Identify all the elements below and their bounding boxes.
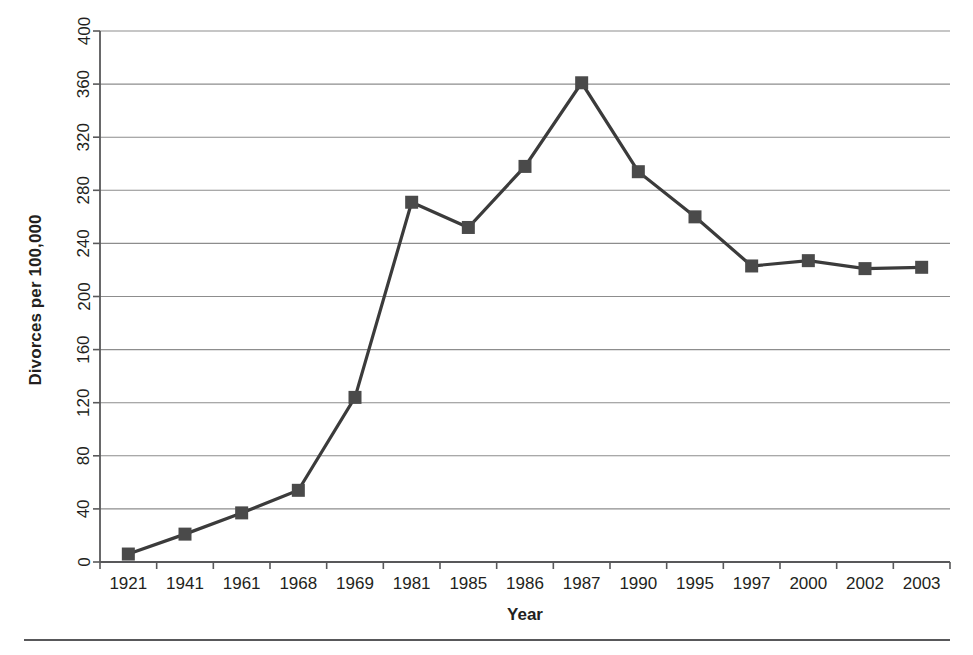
data-point-marker <box>802 254 815 267</box>
x-axis-tick-label: 1981 <box>393 574 431 593</box>
data-point-marker <box>859 262 872 275</box>
y-axis-tick-label: 0 <box>75 557 94 566</box>
y-axis-tick-label: 40 <box>75 499 94 518</box>
data-point-marker <box>575 76 588 89</box>
data-point-marker <box>915 261 928 274</box>
y-axis-tick-labels-group: 04080120160200240280320360400 <box>75 17 94 567</box>
data-point-marker <box>292 484 305 497</box>
x-axis-tick-label: 1990 <box>619 574 657 593</box>
gridlines-group <box>100 31 950 509</box>
data-point-marker <box>349 391 362 404</box>
y-axis-tick-label: 280 <box>75 176 94 204</box>
data-point-marker <box>179 528 192 541</box>
x-axis-tick-labels-group: 1921194119611968196919811985198619871990… <box>109 574 940 593</box>
data-point-marker <box>462 221 475 234</box>
data-point-marker <box>235 506 248 519</box>
data-point-marker <box>745 259 758 272</box>
y-axis-tick-label: 80 <box>75 446 94 465</box>
x-axis-title: Year <box>100 605 950 625</box>
y-axis-tick-label: 360 <box>75 70 94 98</box>
y-axis-tick-label: 400 <box>75 17 94 45</box>
data-point-marker <box>689 210 702 223</box>
data-point-marker <box>632 165 645 178</box>
x-axis-tick-label: 1997 <box>733 574 771 593</box>
y-axis-tick-label: 160 <box>75 335 94 363</box>
data-point-marker <box>405 196 418 209</box>
y-axis-tick-label: 120 <box>75 389 94 417</box>
data-point-marker <box>519 160 532 173</box>
x-axis-tick-label: 1969 <box>336 574 374 593</box>
x-axis-ticks-group <box>100 562 950 569</box>
x-axis-tick-label: 1921 <box>109 574 147 593</box>
x-axis-tick-label: 1995 <box>676 574 714 593</box>
chart-figure: Divorces per 100,000 0408012016020024028… <box>0 0 973 655</box>
data-markers-group <box>122 76 928 560</box>
footer-rule <box>24 639 950 641</box>
x-axis-tick-label: 1986 <box>506 574 544 593</box>
x-axis-tick-label: 1941 <box>166 574 204 593</box>
data-point-marker <box>122 548 135 561</box>
x-axis-tick-label: 2003 <box>903 574 941 593</box>
y-axis-tick-label: 320 <box>75 123 94 151</box>
data-line <box>128 83 921 554</box>
x-axis-tick-label: 2000 <box>789 574 827 593</box>
x-axis-tick-label: 2002 <box>846 574 884 593</box>
line-chart-plot: 04080120160200240280320360400 1921194119… <box>0 0 973 655</box>
x-axis-tick-label: 1961 <box>223 574 261 593</box>
x-axis-tick-label: 1985 <box>449 574 487 593</box>
y-axis-tick-label: 200 <box>75 282 94 310</box>
y-axis-ticks-group <box>93 31 100 562</box>
y-axis-tick-label: 240 <box>75 229 94 257</box>
x-axis-tick-label: 1987 <box>563 574 601 593</box>
x-axis-tick-label: 1968 <box>279 574 317 593</box>
